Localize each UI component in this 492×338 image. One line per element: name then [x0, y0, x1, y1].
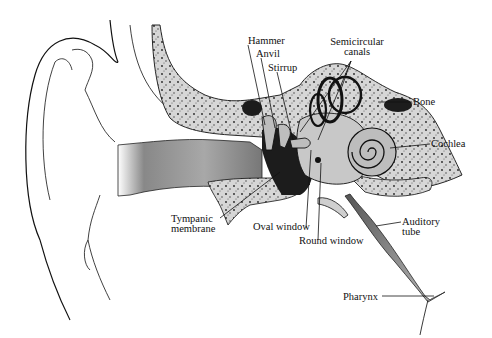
epitympanic-cavity: [242, 100, 262, 116]
label-auditory-line2: tube: [402, 227, 440, 237]
ear-illustration: [0, 0, 492, 338]
bone-fragment: [318, 198, 348, 218]
label-cochlea: Cochlea: [431, 139, 465, 149]
cavity-right: [384, 98, 412, 112]
label-oval-window: Oval window: [253, 222, 310, 232]
label-auditory-tube: Auditory tube: [402, 217, 440, 237]
label-anvil: Anvil: [256, 49, 280, 59]
label-semicircular-line2: canals: [327, 47, 387, 57]
label-round-window: Round window: [299, 236, 363, 246]
label-hammer: Hammer: [248, 36, 285, 46]
label-bone: Bone: [413, 97, 435, 107]
ear-anatomy-diagram: Hammer Anvil Stirrup Semicircular canals…: [0, 0, 492, 338]
auditory-tube: [345, 194, 445, 302]
label-stirrup: Stirrup: [268, 63, 297, 73]
label-tympanic-line2: membrane: [171, 224, 215, 234]
label-pharynx: Pharynx: [343, 292, 378, 302]
label-semicircular-canals: Semicircular canals: [327, 37, 387, 57]
pharynx-wall: [420, 300, 428, 335]
cochlea-spiral: [348, 128, 396, 176]
label-tympanic-membrane: Tympanic membrane: [171, 214, 215, 234]
round-window-dot: [315, 157, 321, 163]
